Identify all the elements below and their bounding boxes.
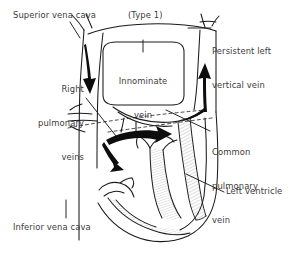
leader-superior-vena-cava bbox=[70, 22, 80, 38]
label-type: (Type 1) bbox=[128, 10, 163, 21]
label-innominate-vein-line1: Innominate bbox=[106, 76, 180, 87]
label-innominate-vein-line2: vein bbox=[106, 110, 180, 121]
descending-flow-arrow bbox=[102, 142, 124, 172]
svc-downward-flow-arrow bbox=[83, 44, 96, 94]
label-right-pulmonary-veins-line1: Right bbox=[6, 84, 84, 95]
label-inferior-vena-cava: Inferior vena cava bbox=[13, 222, 91, 233]
label-right-pulmonary-veins-line3: veins bbox=[6, 152, 84, 163]
label-persistent-left-vertical-vein-line1: Persistent left bbox=[212, 46, 271, 57]
label-innominate-vein: Innominate vein bbox=[106, 54, 180, 144]
label-common-pulmonary-vein-line3: vein bbox=[212, 215, 258, 226]
label-common-pulmonary-vein-line1: Common bbox=[212, 147, 258, 158]
diagram-canvas: Superior vena cava (Type 1) Persistent l… bbox=[0, 0, 299, 253]
label-persistent-left-vertical-vein-line2: vertical vein bbox=[212, 80, 271, 91]
label-right-pulmonary-veins-line2: pulmonary bbox=[6, 118, 84, 129]
label-left-ventricle: Left ventricle bbox=[226, 186, 282, 197]
label-right-pulmonary-veins: Right pulmonary veins bbox=[6, 62, 84, 185]
label-superior-vena-cava: Superior vena cava bbox=[13, 10, 96, 21]
cardiac-branch-shading bbox=[150, 148, 181, 220]
label-persistent-left-vertical-vein: Persistent left vertical vein bbox=[212, 24, 271, 114]
